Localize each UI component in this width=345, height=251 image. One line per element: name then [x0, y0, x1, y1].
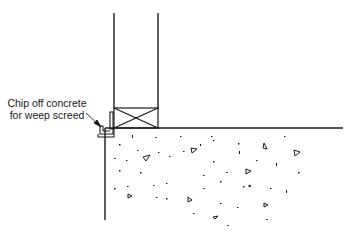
section-detail-drawing [0, 0, 345, 251]
aggregate-stipple [128, 143, 300, 219]
callout-line-1: Chip off concrete [2, 97, 92, 109]
weep-screed [98, 112, 114, 137]
callout-line-2: for weep screed [2, 109, 92, 121]
aggregate-dots [114, 135, 300, 226]
callout-label: Chip off concrete for weep screed [2, 97, 92, 121]
wall-framing [114, 13, 158, 108]
bottom-plate-with-x-blocking [114, 108, 158, 128]
